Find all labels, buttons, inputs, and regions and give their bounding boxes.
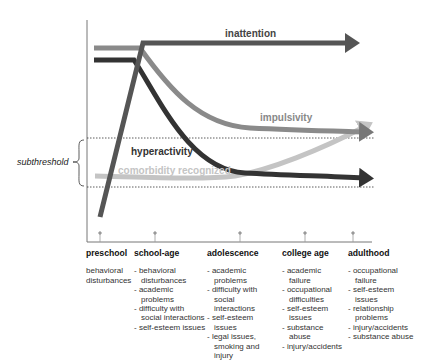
stage-college-age: college age academic failure occupationa… <box>282 249 344 351</box>
stage-item: behavioral disturbances <box>86 266 136 285</box>
stage-item: behavioral disturbances <box>134 266 206 285</box>
stage-item: legal issues, smoking and injury <box>207 332 277 360</box>
hyperactivity-label: hyperactivity <box>131 146 193 157</box>
stage-item: self-esteem issues <box>282 304 344 323</box>
stage-title: adolescence <box>207 249 277 258</box>
stage-preschool: preschool behavioral disturbances <box>86 249 136 285</box>
stage-item: self-esteem issues <box>348 285 418 304</box>
stage-item: academic problems <box>134 285 206 304</box>
stage-adolescence: adolescence academic problems difficulty… <box>207 249 277 360</box>
stage-item: self-esteem issues <box>134 323 206 332</box>
stage-item: substance abuse <box>348 332 418 341</box>
comorbidity-label: comorbidity recognized <box>118 165 231 176</box>
subthreshold-brace <box>73 140 84 186</box>
stage-item: difficulty with social interactions <box>134 304 206 323</box>
stage-item: relationship problems <box>348 304 418 323</box>
stage-title: adulthood <box>348 249 418 258</box>
stage-item: academic failure <box>282 266 344 285</box>
stage-school-age: school-age behavioral disturbances acade… <box>134 249 206 332</box>
stage-item: difficulty with social interactions <box>207 285 277 313</box>
stage-title: college age <box>282 249 344 258</box>
stage-item: injury/accidents <box>282 342 344 351</box>
stage-item: substance abuse <box>282 323 344 342</box>
inattention-label: inattention <box>225 28 276 39</box>
stage-title: preschool <box>86 249 136 258</box>
stage-item: injury/accidents <box>348 323 418 332</box>
stage-item: occupational failure <box>348 266 418 285</box>
stage-title: school-age <box>134 249 206 258</box>
subthreshold-label: subthreshold <box>17 157 70 167</box>
stage-item: academic problems <box>207 266 277 285</box>
stage-adulthood: adulthood occupational failure self-este… <box>348 249 418 342</box>
stage-ticks <box>99 232 355 242</box>
impulsivity-label: impulsivity <box>260 112 313 123</box>
stage-item: self-esteem issues <box>207 313 277 332</box>
stage-item: occupational difficulties <box>282 285 344 304</box>
